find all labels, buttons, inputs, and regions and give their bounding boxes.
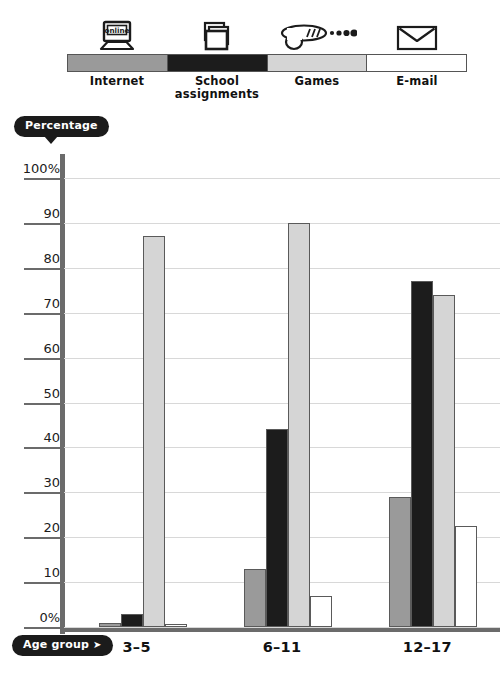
y-axis-tick-label: 60 [20, 341, 60, 356]
stacked-papers-icon [199, 20, 235, 52]
y-axis-tick [24, 447, 64, 449]
bar-school-assignments-12-17 [411, 281, 433, 627]
y-axis-title: Percentage [25, 119, 98, 132]
y-axis-tick [24, 537, 64, 539]
y-axis-tick-label: 30 [20, 475, 60, 490]
y-axis-tick-label: 40 [20, 430, 60, 445]
arrow-right-icon: ➤ [93, 638, 102, 652]
bar-internet-6-11 [244, 569, 266, 627]
bar-games-6-11 [288, 223, 310, 627]
legend-icon-cell-games [267, 8, 367, 52]
y-axis-tick [24, 313, 64, 315]
ray-gun-icon [277, 22, 357, 52]
bar-e-mail-12-17 [455, 526, 477, 627]
bar-games-12-17 [433, 295, 455, 627]
x-axis-title: Age group [23, 638, 89, 651]
chart-legend: online [0, 0, 503, 98]
plot-area: 100%9080706050403020100% [64, 178, 500, 627]
y-axis-tick [24, 178, 64, 180]
y-axis-tick-label: 90 [20, 206, 60, 221]
y-axis-tick [24, 268, 64, 270]
legend-swatch-games [268, 55, 368, 71]
y-axis-tick-label: 0% [20, 610, 60, 625]
bar-internet-12-17 [389, 497, 411, 627]
legend-icon-cell-internet: online [67, 8, 167, 52]
legend-swatch-email [367, 55, 466, 71]
bar-games-3-5 [143, 236, 165, 627]
bar-chart: Percentage 100%9080706050403020100% 3–56… [0, 98, 503, 679]
gridline [64, 627, 500, 628]
x-axis-category-labels: 3–56–1112–17 [64, 639, 500, 665]
y-axis-tick [24, 627, 64, 629]
x-axis-label-12-17: 12–17 [355, 639, 500, 655]
bar-school-assignments-6-11 [266, 429, 288, 627]
y-axis-tick-label: 70 [20, 296, 60, 311]
y-axis-tick-label: 100% [20, 161, 60, 176]
legend-swatch-internet [68, 55, 168, 71]
y-axis-tick-label: 10 [20, 565, 60, 580]
y-axis-tick [24, 582, 64, 584]
legend-icon-row: online [67, 8, 467, 52]
bar-school-assignments-3-5 [121, 614, 143, 627]
legend-label-line: School [195, 74, 239, 88]
legend-color-bar [67, 54, 467, 72]
y-axis-tick-label: 80 [20, 251, 60, 266]
y-axis-tick [24, 403, 64, 405]
y-axis-tick [24, 358, 64, 360]
envelope-icon [395, 22, 439, 52]
pill-tail-triangle [44, 136, 58, 144]
y-axis-tick [24, 223, 64, 225]
x-axis-label-6-11: 6–11 [209, 639, 354, 655]
bar-e-mail-6-11 [310, 596, 332, 627]
legend-icon-cell-school-assignments [167, 8, 267, 52]
chart-page: online [0, 0, 503, 679]
y-axis-tick-label: 50 [20, 386, 60, 401]
bar-internet-3-5 [99, 623, 121, 627]
y-axis-title-pill: Percentage [14, 116, 109, 137]
svg-text:online: online [105, 26, 130, 35]
y-axis-tick [24, 492, 64, 494]
bar-e-mail-3-5 [165, 624, 187, 627]
laptop-online-icon: online [97, 20, 137, 52]
legend-swatch-school-assignments [168, 55, 268, 71]
legend-icon-cell-email [367, 8, 467, 52]
x-axis-title-pill[interactable]: Age group➤ [12, 635, 113, 656]
bars-group [64, 178, 500, 627]
y-axis-tick-label: 20 [20, 520, 60, 535]
